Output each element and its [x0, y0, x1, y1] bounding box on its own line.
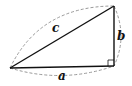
label-b: b [117, 29, 125, 43]
right-triangle-diagram: c b a [0, 0, 132, 86]
right-angle-marker [108, 60, 114, 66]
side-c [10, 6, 114, 68]
side-a [10, 66, 114, 68]
label-a: a [58, 69, 66, 83]
label-c: c [52, 21, 60, 35]
